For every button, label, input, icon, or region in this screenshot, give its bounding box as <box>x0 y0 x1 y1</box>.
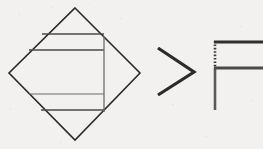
background <box>0 0 263 149</box>
figure-canvas <box>0 0 263 149</box>
line-diagram <box>0 0 263 149</box>
